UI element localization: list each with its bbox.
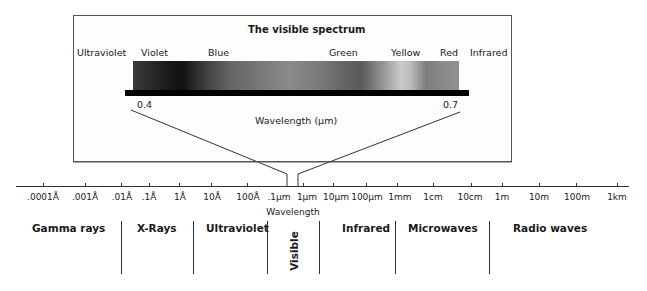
tick-label: 1Å (174, 192, 186, 202)
band-divider (193, 221, 194, 274)
tick-label: 100Å (236, 192, 259, 202)
axis-tick (539, 183, 540, 187)
axis-tick (211, 183, 212, 187)
axis-tick (502, 183, 503, 187)
axis-tick (247, 183, 248, 187)
zoom-connector-lines (0, 0, 647, 291)
band-divider (121, 221, 122, 274)
axis-tick (433, 183, 434, 187)
tick-label: 10Å (203, 192, 221, 202)
band-divider (319, 221, 320, 274)
axis-tick (397, 183, 398, 187)
tick-label: 1m (495, 192, 510, 202)
band-gamma-rays: Gamma rays (32, 222, 105, 234)
axis-tick (43, 183, 44, 187)
tick-label: 10cm (457, 192, 482, 202)
tick-label: 10m (529, 192, 549, 202)
tick-label: 100m (564, 192, 590, 202)
band-radio-waves: Radio waves (513, 222, 587, 234)
tick-label: 1cm (423, 192, 442, 202)
band-infrared: Infrared (342, 222, 390, 234)
tick-label: 1mm (388, 192, 411, 202)
axis-tick (333, 183, 334, 187)
tick-label: .001Å (72, 192, 98, 202)
band-microwaves: Microwaves (408, 222, 478, 234)
tick-label: .01Å (112, 192, 132, 202)
band-ultraviolet: Ultraviolet (206, 222, 269, 234)
tick-label: .1Å (142, 192, 157, 202)
axis-tick (179, 183, 180, 187)
band-x-rays: X-Rays (137, 222, 177, 234)
main-axis-label: Wavelength (266, 207, 319, 217)
axis-tick (85, 183, 86, 187)
axis-tick (471, 183, 472, 187)
tick-label: .1µm (267, 192, 290, 202)
tick-label: 100µm (351, 192, 383, 202)
axis-tick (576, 183, 577, 187)
axis-tick (303, 183, 304, 187)
axis-tick (149, 183, 150, 187)
axis-tick (617, 183, 618, 187)
tick-label: 1km (607, 192, 627, 202)
tick-label: 1µm (297, 192, 317, 202)
tick-label: .0001Å (27, 192, 59, 202)
band-divider (395, 221, 396, 274)
axis-tick (366, 183, 367, 187)
wavelength-axis (16, 186, 629, 187)
band-visible: Visible (288, 231, 300, 271)
axis-tick (121, 183, 122, 187)
band-divider (489, 221, 490, 274)
tick-label: 10µm (323, 192, 349, 202)
